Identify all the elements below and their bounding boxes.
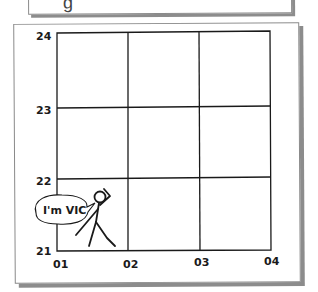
grid-frame: [57, 31, 271, 251]
y-label-24: 24: [36, 30, 52, 43]
x-label-03: 03: [194, 256, 209, 269]
y-label-23: 23: [36, 104, 51, 117]
y-label-22: 22: [36, 175, 51, 188]
x-label-01: 01: [53, 258, 68, 271]
figure-body: [96, 203, 99, 222]
grid-lines: [57, 31, 271, 251]
grid-svg: 24 23 22 21 01 02 03 04 I'm VIC: [0, 0, 318, 292]
grid-line-22: [57, 177, 271, 179]
figure-left-leg: [89, 222, 96, 246]
x-label-04: 04: [264, 255, 280, 268]
x-label-02: 02: [123, 258, 138, 271]
grid-line-03: [199, 32, 200, 250]
speech-bubble: I'm VIC: [35, 195, 95, 224]
speech-text: I'm VIC: [43, 204, 86, 217]
grid-line-23: [57, 106, 270, 108]
y-label-21: 21: [36, 245, 51, 258]
figure-right-leg: [96, 222, 115, 246]
grid-reference-diagram: g 24 23 22 21 01 02 03 04 I'm VIC: [0, 0, 318, 292]
